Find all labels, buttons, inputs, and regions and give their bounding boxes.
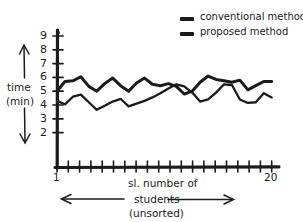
y-axis-title-line-1: time: [7, 82, 31, 93]
y-tick-label-3: 3: [40, 113, 47, 124]
legend-marker-proposed-method: [180, 32, 194, 36]
y-tick-label-7: 7: [40, 58, 47, 69]
x-axis-caption-line-2: students: [134, 194, 180, 205]
legend-label-conventional-method: conventional method: [200, 12, 303, 22]
y-tick-label-6: 6: [40, 71, 47, 82]
x-axis-end-label: 20: [264, 172, 277, 183]
y-tick-label-9: 9: [40, 30, 47, 41]
y-axis-direction-arrow: [20, 45, 31, 143]
y-tick-label-5: 5: [40, 85, 47, 96]
y-axis-top-flick: [58, 30, 60, 33]
y-axis-title-line-2: (min): [6, 96, 34, 107]
x-axis-caption-line-1: sl. number of: [128, 178, 198, 189]
x-axis-start-label: 1: [53, 172, 60, 183]
y-tick-label-8: 8: [40, 44, 47, 55]
legend-marker-conventional-method: [180, 17, 194, 21]
y-tick-label-2: 2: [40, 127, 47, 138]
legend-label-proposed-method: proposed method: [200, 27, 288, 37]
x-axis-caption-line-3: (unsorted): [129, 208, 184, 219]
x-axis-line: [55, 167, 279, 168]
y-tick-label-4: 4: [40, 99, 47, 110]
